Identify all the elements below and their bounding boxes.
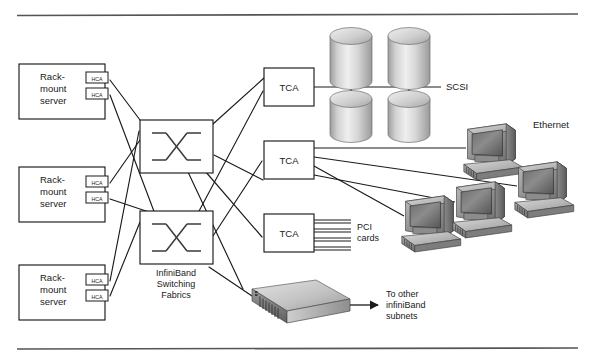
pci-cards-group: PCI cards: [314, 220, 380, 250]
ethernet-label: Ethernet: [533, 119, 569, 130]
workstation-1[interactable]: [464, 124, 523, 180]
uplink-label-line2: infiniBand: [386, 300, 426, 310]
tca-label-pci: TCA: [280, 228, 300, 239]
bottom-rule: [17, 348, 578, 349]
server-group-2[interactable]: Rack- mount server HCA HCA: [19, 167, 108, 222]
tca-label-ethernet: TCA: [280, 155, 300, 166]
disk-3[interactable]: [330, 91, 372, 143]
link-swtop-tca1: [213, 78, 264, 124]
tca-group-pci[interactable]: TCA: [264, 214, 314, 252]
hca-label-2a: HCA: [92, 180, 103, 186]
router-appliance[interactable]: [252, 280, 350, 323]
hca-label-1b: HCA: [92, 92, 103, 98]
diagram-root: Rack- mount server HCA HCA Rack- mount s…: [0, 0, 592, 358]
pci-label-line1: PCI: [357, 222, 372, 232]
tca-label-storage: TCA: [280, 82, 300, 93]
server-label-1-line3: server: [40, 95, 66, 106]
link-s3hca1-swtop: [110, 131, 139, 281]
disk-1[interactable]: [330, 28, 372, 90]
uplink-label-line3: subnets: [386, 311, 418, 321]
fabric-caption-line1: InfiniBand: [156, 268, 196, 278]
server-label-3-line3: server: [40, 296, 66, 307]
link-tca2-pc3: [314, 166, 404, 216]
top-rule: [17, 14, 578, 16]
server-group-1[interactable]: Rack- mount server HCA HCA: [19, 64, 108, 119]
fabric-caption: InfiniBand Switching Fabrics: [156, 268, 196, 300]
fabric-caption-line2: Switching: [157, 279, 196, 289]
workstation-3[interactable]: [402, 196, 461, 252]
scsi-label: SCSI: [446, 81, 468, 92]
workstation-4[interactable]: [453, 182, 512, 238]
server-group-3[interactable]: Rack- mount server HCA HCA: [19, 265, 108, 320]
switch-fabric-bottom[interactable]: [140, 211, 213, 264]
tca-group-storage[interactable]: TCA: [264, 68, 314, 106]
disk-2[interactable]: [388, 28, 430, 90]
link-s1hca1-swtop: [110, 80, 143, 124]
hca-label-2b: HCA: [92, 196, 103, 202]
hca-label-3b: HCA: [92, 294, 103, 300]
switch-fabric-top[interactable]: [140, 120, 213, 173]
router-uplink-group: To other infiniBand subnets: [350, 289, 426, 321]
hca-label-1a: HCA: [92, 76, 103, 82]
server-label-3-line1: Rack-: [40, 272, 65, 283]
server-label-1-line1: Rack-: [40, 71, 65, 82]
uplink-label-line1: To other: [386, 289, 419, 299]
tca-group-ethernet[interactable]: TCA: [264, 141, 314, 179]
server-label-3-line2: mount: [40, 284, 67, 295]
network-diagram-canvas: Rack- mount server HCA HCA Rack- mount s…: [0, 0, 592, 358]
fabric-caption-line3: Fabrics: [161, 290, 191, 300]
pci-label-line2: cards: [357, 233, 380, 243]
server-label-1-line2: mount: [40, 83, 67, 94]
disk-4[interactable]: [388, 91, 430, 143]
link-swbot-router: [209, 267, 252, 296]
hca-label-3a: HCA: [92, 278, 103, 284]
server-label-2-line1: Rack-: [40, 174, 65, 185]
server-label-2-line2: mount: [40, 186, 67, 197]
link-swtop-tca2: [214, 155, 263, 180]
server-label-2-line3: server: [40, 198, 66, 209]
workstation-2[interactable]: [515, 162, 574, 218]
